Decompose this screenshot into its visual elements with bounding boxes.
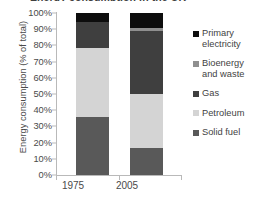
bar-segment-petroleum[interactable]: [130, 94, 163, 148]
y-tick-label: 40%: [0, 105, 52, 115]
legend-label: Bioenergy and waste: [202, 58, 255, 79]
legend-item-primary-electricity[interactable]: Primary electricity: [193, 28, 255, 49]
legend-item-bioenergy-and-waste[interactable]: Bioenergy and waste: [193, 58, 255, 79]
legend-swatch-icon: [193, 110, 199, 116]
legend-swatch-icon: [193, 91, 199, 97]
y-tick-label: 10%: [0, 154, 52, 164]
legend-swatch-icon: [193, 130, 199, 136]
x-tick-label-1975: 1975: [43, 180, 103, 191]
legend-label: Petroleum: [202, 108, 244, 119]
bar-segment-primary-electricity[interactable]: [76, 13, 109, 22]
plot-area: [56, 13, 180, 175]
bar-segment-solid-fuel[interactable]: [76, 117, 109, 175]
y-tick-label: 80%: [0, 40, 52, 50]
x-tick-label-2005: 2005: [97, 180, 157, 191]
legend-label: Solid fuel: [202, 127, 240, 138]
chart-title: Energy consumption in the UK: [28, 0, 188, 1]
y-tick-label: 0%: [0, 170, 52, 180]
legend-label: Primary electricity: [202, 28, 255, 49]
legend-item-gas[interactable]: Gas: [193, 88, 255, 99]
legend-swatch-icon: [193, 31, 199, 37]
bar-segment-gas[interactable]: [76, 22, 109, 48]
y-tick-label: 90%: [0, 24, 52, 34]
bar-segment-bioenergy-and-waste[interactable]: [130, 28, 163, 31]
x-tick-mark: [181, 175, 182, 180]
bar-segment-petroleum[interactable]: [76, 48, 109, 117]
legend-swatch-icon: [193, 61, 199, 67]
y-tick-label: 50%: [0, 89, 52, 99]
chart-legend: Primary electricityBioenergy and wasteGa…: [193, 28, 255, 147]
x-tick-mark: [56, 175, 57, 180]
chart-container: Energy consumption in the UK Energy cons…: [0, 0, 255, 207]
y-tick-label: 30%: [0, 121, 52, 131]
legend-label: Gas: [202, 88, 219, 99]
legend-item-solid-fuel[interactable]: Solid fuel: [193, 127, 255, 138]
y-tick-label: 100%: [0, 8, 52, 18]
legend-item-petroleum[interactable]: Petroleum: [193, 108, 255, 119]
y-tick-label: 20%: [0, 138, 52, 148]
bar-segment-primary-electricity[interactable]: [130, 13, 163, 28]
bar-segment-gas[interactable]: [130, 31, 163, 94]
y-tick-label: 60%: [0, 73, 52, 83]
x-tick-mark: [119, 175, 120, 180]
y-tick-label: 70%: [0, 57, 52, 67]
bar-segment-solid-fuel[interactable]: [130, 148, 163, 175]
